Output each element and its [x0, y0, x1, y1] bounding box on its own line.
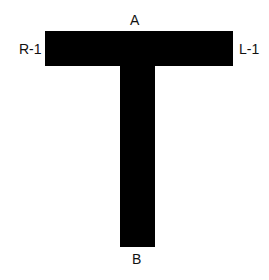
- label-top-a: A: [130, 13, 139, 27]
- t-crossbar: [45, 31, 233, 66]
- t-stem: [120, 64, 155, 247]
- label-bottom-b: B: [132, 252, 141, 266]
- diagram-canvas: A R-1 L-1 B: [0, 0, 269, 280]
- label-right-l1: L-1: [239, 42, 259, 56]
- label-left-r1: R-1: [19, 42, 42, 56]
